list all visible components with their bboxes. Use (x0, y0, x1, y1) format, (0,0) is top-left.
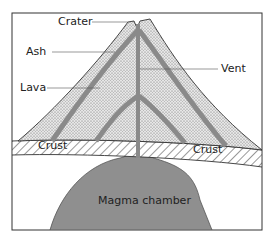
magma-chamber-label: Magma chamber (98, 195, 191, 206)
volcano-illustration (0, 0, 274, 245)
crust-right-label: Crust (193, 144, 222, 155)
vent-label: Vent (221, 63, 246, 74)
ash-label: Ash (26, 46, 46, 57)
lava-label: Lava (20, 82, 46, 93)
volcano-diagram: Crater Ash Lava Vent Crust Crust Magma c… (0, 0, 274, 245)
crater-label: Crater (58, 16, 93, 27)
crust-left-label: Crust (38, 140, 67, 151)
